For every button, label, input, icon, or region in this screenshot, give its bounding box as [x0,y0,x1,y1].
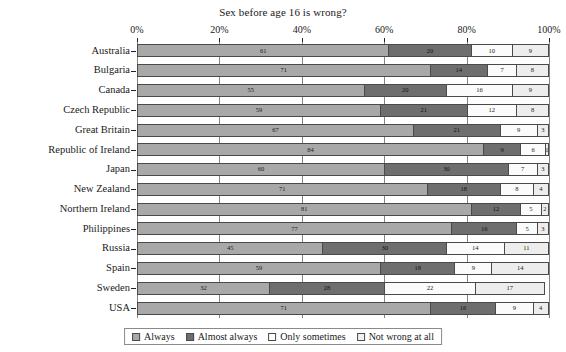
bar-segment: 67 [137,124,413,137]
y-tick-mark [131,268,136,269]
bar-segment: 3 [537,222,549,235]
legend-swatch-icon [186,333,194,341]
segment-value-label: 67 [272,127,279,134]
segment-value-label: 21 [421,107,428,114]
category-label: Japan [106,164,130,175]
category-label: USA [109,303,130,314]
segment-value-label: 5 [525,226,528,233]
stacked-bar: 711478 [137,64,549,77]
segment-value-label: 60 [258,166,265,173]
segment-value-label: 4 [539,186,542,193]
category-label: Australia [92,46,131,57]
segment-value-label: 3 [541,226,544,233]
segment-value-label: 4 [539,305,542,312]
legend-swatch-icon [268,333,276,341]
stacked-bar: 711694 [137,302,549,315]
segment-value-label: 61 [260,48,267,55]
bar-segment: 2 [541,203,549,216]
bar-segment: 22 [384,282,475,295]
segment-value-label: 16 [476,87,483,94]
legend-item[interactable]: Only sometimes [268,331,345,342]
segment-value-label: 6 [531,147,534,154]
bar-segment: 30 [322,242,446,255]
segment-value-label: 9 [529,87,532,94]
y-tick-mark [131,170,136,171]
legend-item[interactable]: Not wrong at all [357,331,434,342]
legend-item[interactable]: Always [132,331,175,342]
stacked-bar: 771653 [137,222,549,235]
segment-value-label: 77 [291,226,298,233]
segment-value-label: 14 [472,245,479,252]
bar-segment: 71 [137,64,430,77]
segment-value-label: 9 [513,305,516,312]
chart-row: Northern Ireland811252 [137,199,549,219]
gridline [549,41,550,318]
legend-item[interactable]: Almost always [186,331,258,342]
segment-value-label: 8 [531,107,534,114]
stacked-bar: 811252 [137,203,549,216]
y-tick-mark [131,51,136,52]
category-label: Northern Ireland [60,204,130,215]
segment-value-label: 28 [324,285,331,292]
bar-segment: 71 [137,302,430,315]
chart-row: New Zealand711884 [137,179,549,199]
bar-segment: 6 [520,143,545,156]
segment-value-label: 22 [427,285,434,292]
bar-segment: 3 [537,163,549,176]
segment-value-label: 9 [500,147,503,154]
segment-value-label: 84 [307,147,314,154]
segment-value-label: 81 [301,206,308,213]
segment-value-label: 8 [515,186,518,193]
segment-value-label: 18 [461,186,468,193]
chart-row: Czech Republic5921128 [137,100,549,120]
chart-row: Spain5918914 [137,259,549,279]
bar-segment: 16 [451,222,516,235]
x-tick-label: 20% [210,24,228,35]
y-tick-mark [131,288,136,289]
segment-value-label: 30 [381,245,388,252]
segment-value-label: 9 [472,265,475,272]
segment-value-label: 3 [541,127,544,134]
segment-value-label: 11 [523,245,529,252]
bar-segment: 9 [454,262,491,275]
bar-segment: 21 [380,104,467,117]
category-label: Philippines [83,224,130,235]
segment-value-label: 71 [279,186,286,193]
bar-segment: 9 [512,84,549,97]
chart-row: USA711694 [137,298,549,318]
stacked-bar: 672193 [137,124,549,137]
category-label: Spain [106,263,130,274]
x-tick-mark [302,38,303,42]
chart-row: Great Britain672193 [137,120,549,140]
segment-value-label: 3 [541,166,544,173]
bar-segment: 8 [500,183,533,196]
x-axis-tick-labels: 0%20%40%60%80%100% [137,24,549,38]
bar-segment: 7 [508,163,537,176]
bar-segment: 20 [364,84,446,97]
segment-value-label: 17 [507,285,514,292]
category-label: Sweden [97,283,130,294]
segment-value-label: 71 [281,67,288,74]
bar-segment: 17 [475,282,545,295]
bar-segment: 5 [516,222,536,235]
bar-segment: 11 [504,242,549,255]
bar-segment: 8 [516,64,549,77]
legend-swatch-icon [357,333,365,341]
segment-value-label: 45 [227,245,234,252]
stacked-bar: 711884 [137,183,549,196]
segment-value-label: 10 [489,48,496,55]
x-tick-label: 80% [457,24,475,35]
bar-segment: 7 [487,64,516,77]
bar-segment: 9 [495,302,532,315]
chart-row: Canada5520169 [137,81,549,101]
category-label: Bulgaria [94,65,130,76]
segment-value-label: 9 [517,127,520,134]
stacked-bar: 32282217 [137,282,549,295]
y-tick-mark [131,150,136,151]
bar-segment: 1 [545,143,549,156]
bar-segment: 14 [491,262,549,275]
segment-value-label: 20 [402,87,409,94]
x-tick-mark [384,38,385,42]
bar-segment: 14 [430,64,488,77]
chart-row: Australia6120109 [137,41,549,61]
